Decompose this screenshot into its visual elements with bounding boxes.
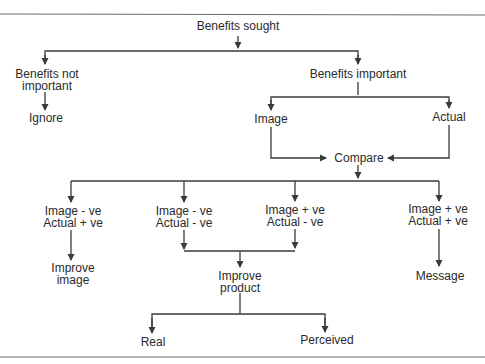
node-image-pos-actual-pos: Image + ve Actual + ve	[408, 203, 468, 227]
node-image: Image	[254, 113, 287, 125]
node-improve-product: Improve product	[218, 270, 261, 294]
node-label-line2: Actual + ve	[43, 217, 103, 229]
node-ignore: Ignore	[29, 112, 63, 124]
node-label-line2: important	[15, 80, 78, 92]
node-label-line2: product	[218, 282, 261, 294]
node-label-line2: Actual + ve	[408, 215, 468, 227]
node-actual: Actual	[432, 111, 465, 123]
node-label-line2: Actual - ve	[156, 217, 213, 229]
node-label: Real	[141, 336, 166, 348]
node-perceived: Perceived	[300, 334, 353, 346]
node-label: Perceived	[300, 334, 353, 346]
node-benefits-important: Benefits important	[310, 68, 407, 80]
connector-lines	[0, 0, 485, 364]
node-label: Benefits important	[310, 68, 407, 80]
node-image-pos-actual-neg: Image + ve Actual - ve	[265, 204, 325, 228]
node-real: Real	[141, 336, 166, 348]
node-compare: Compare	[334, 152, 383, 164]
node-message: Message	[416, 270, 465, 282]
node-benefits-not-important: Benefits not important	[15, 68, 78, 92]
node-label: Compare	[334, 152, 383, 164]
node-improve-image: Improve image	[51, 262, 94, 286]
node-image-neg-actual-neg: Image - ve Actual - ve	[156, 205, 213, 229]
node-label: Image	[254, 113, 287, 125]
node-label: Ignore	[29, 112, 63, 124]
node-label: Message	[416, 270, 465, 282]
node-benefits-sought: Benefits sought	[197, 20, 280, 32]
node-image-neg-actual-pos: Image - ve Actual + ve	[43, 205, 103, 229]
node-label-line2: Actual - ve	[265, 216, 325, 228]
node-label: Benefits sought	[197, 20, 280, 32]
node-label-line2: image	[51, 274, 94, 286]
top-rule	[0, 14, 485, 15]
node-label: Actual	[432, 111, 465, 123]
